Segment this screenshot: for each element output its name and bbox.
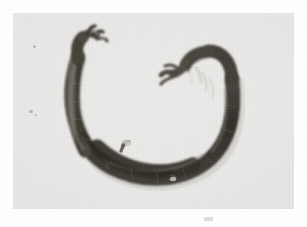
specimen-body <box>72 57 233 179</box>
photograph <box>13 13 294 209</box>
page-canvas <box>0 0 307 227</box>
scan-artifact-mark <box>204 217 213 221</box>
specimen-illustration <box>13 13 294 209</box>
upper-arc-nub <box>121 140 132 151</box>
specimen-left-tip <box>77 26 107 59</box>
lower-arc-nub <box>167 175 177 182</box>
dust-speck <box>35 114 37 116</box>
dust-speck <box>29 110 33 113</box>
dust-speck <box>33 45 36 48</box>
specimen-right-tip <box>161 51 232 98</box>
